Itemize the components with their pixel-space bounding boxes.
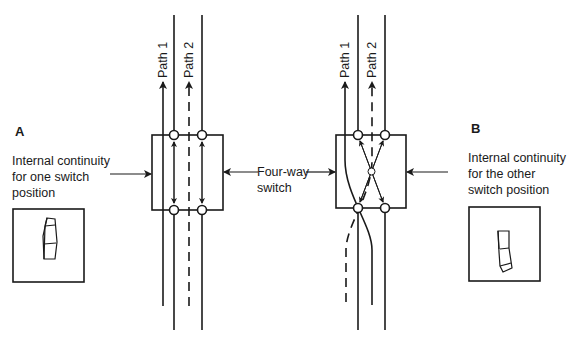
terminal — [354, 131, 363, 140]
panel-a-letter: A — [15, 124, 24, 139]
path1-label-right: Path 1 — [338, 42, 352, 78]
four-way-switch-label: Four-way switch — [257, 164, 309, 196]
terminal — [354, 204, 363, 213]
path2-label-left: Path 2 — [182, 42, 196, 78]
switch-plate-b — [469, 207, 540, 281]
switch-plate-a — [13, 209, 84, 282]
terminal — [198, 206, 207, 215]
panel-b-letter: B — [471, 121, 480, 136]
path1-label-left: Path 1 — [156, 42, 170, 78]
terminal — [170, 131, 179, 140]
panel-b-caption: Internal continuity for the other switch… — [468, 150, 566, 198]
toggle-icon-up — [43, 218, 57, 259]
path2-label-right: Path 2 — [365, 42, 379, 78]
terminal — [170, 206, 179, 215]
path2-line-right — [346, 82, 372, 302]
terminal — [381, 131, 390, 140]
terminal — [198, 131, 207, 140]
terminal — [381, 204, 390, 213]
panel-a-caption: Internal continuity for one switch posit… — [12, 153, 110, 201]
